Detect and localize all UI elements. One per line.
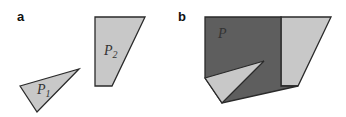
p-label: P xyxy=(217,26,227,41)
light-quadrilateral xyxy=(281,17,331,86)
panel-a-label: a xyxy=(17,9,25,24)
figure: a P2 P1 b P xyxy=(0,0,346,117)
polygon-p2 xyxy=(95,17,145,86)
panel-b-label: b xyxy=(178,9,186,24)
